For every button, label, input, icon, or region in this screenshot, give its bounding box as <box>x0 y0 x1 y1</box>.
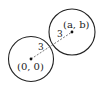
center-point-ab <box>71 31 74 34</box>
center-label-origin: (0, 0) <box>17 61 44 72</box>
center-label-ab: (a, b) <box>63 19 90 30</box>
radius-label-origin: 3 <box>38 42 44 52</box>
diagram-canvas: 3 3 (0, 0) (a, b) <box>0 0 101 90</box>
center-point-origin <box>30 58 33 61</box>
radius-label-ab: 3 <box>57 29 63 39</box>
